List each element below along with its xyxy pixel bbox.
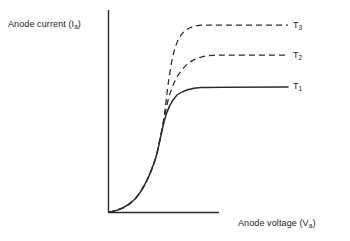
y-axis-label-close: ) — [78, 19, 81, 29]
y-axis-label: Anode current (Ia) — [8, 19, 81, 30]
curve-label-T1-subscript: 1 — [299, 85, 303, 92]
curve-label-T3: T3 — [293, 20, 302, 31]
x-axis-label-close: ) — [312, 218, 315, 228]
x-axis-label-text: Anode voltage (V — [238, 218, 309, 228]
curve-label-T1: T1 — [293, 81, 302, 92]
curve-label-T2: T2 — [293, 50, 302, 61]
curve-label-T2-subscript: 2 — [299, 54, 303, 61]
curve-label-T3-subscript: 3 — [299, 24, 303, 31]
curve-T1 — [109, 87, 288, 212]
chart-figure: Anode current (Ia) Anode voltage (Va) T3… — [0, 0, 350, 241]
x-axis-label: Anode voltage (Va) — [238, 218, 315, 229]
curve-T3 — [109, 25, 288, 212]
y-axis-label-text: Anode current (I — [8, 19, 74, 29]
curve-T2 — [109, 55, 288, 212]
anode-characteristic-plot — [0, 0, 350, 241]
